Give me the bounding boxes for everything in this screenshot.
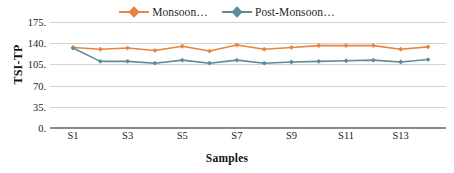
- y-tick-label: 140.: [28, 38, 46, 49]
- chart-legend: Monsoon… Post-Monsoon…: [0, 2, 454, 22]
- x-tick-label: S11: [338, 130, 354, 141]
- y-tick-label: 105.: [28, 59, 46, 70]
- chart-container: Monsoon… Post-Monsoon… TSI-TP 0.35.70.10…: [0, 0, 454, 173]
- data-point-marker: [426, 44, 431, 49]
- x-tick-label: S1: [67, 130, 78, 141]
- data-point-marker: [371, 43, 376, 48]
- legend-entry-monsoon[interactable]: Monsoon…: [119, 6, 208, 18]
- data-point-marker: [316, 59, 321, 64]
- y-tick-label: 175.: [28, 17, 46, 28]
- series-monsoon: [71, 43, 431, 54]
- legend-swatch-post-monsoon-icon: [222, 7, 252, 17]
- y-axis-title: TSI-TP: [11, 30, 26, 100]
- data-point-marker: [98, 47, 103, 52]
- series-layer: [50, 22, 446, 128]
- data-point-marker: [344, 43, 349, 48]
- legend-label-monsoon: Monsoon…: [152, 6, 208, 18]
- data-point-marker: [125, 46, 130, 51]
- data-point-marker: [153, 61, 158, 66]
- data-point-marker: [398, 47, 403, 52]
- x-tick-label: S13: [393, 130, 409, 141]
- data-point-marker: [262, 61, 267, 66]
- data-point-marker: [207, 49, 212, 54]
- data-point-marker: [316, 43, 321, 48]
- data-point-marker: [207, 61, 212, 66]
- data-point-marker: [234, 43, 239, 48]
- x-tick-label: S5: [177, 130, 188, 141]
- data-point-marker: [289, 60, 294, 65]
- data-point-marker: [371, 58, 376, 63]
- x-axis-title: Samples: [0, 152, 454, 164]
- x-tick-label: S7: [231, 130, 242, 141]
- legend-swatch-monsoon-icon: [119, 7, 149, 17]
- y-tick-label: 0.: [38, 123, 46, 134]
- x-tick-label: S3: [122, 130, 133, 141]
- data-point-marker: [398, 60, 403, 65]
- data-point-marker: [125, 59, 130, 64]
- legend-label-post-monsoon: Post-Monsoon…: [255, 6, 335, 18]
- legend-entry-post-monsoon[interactable]: Post-Monsoon…: [222, 6, 335, 18]
- data-point-marker: [344, 58, 349, 63]
- y-tick-label: 35.: [33, 101, 46, 112]
- plot-area: 0.35.70.105.140.175. S1S3S5S7S9S11S13: [50, 22, 446, 128]
- y-tick-label: 70.: [33, 80, 46, 91]
- data-point-marker: [180, 44, 185, 49]
- data-point-marker: [234, 58, 239, 63]
- data-point-marker: [153, 48, 158, 53]
- data-point-marker: [426, 57, 431, 62]
- data-point-marker: [289, 45, 294, 50]
- x-tick-label: S9: [286, 130, 297, 141]
- data-point-marker: [262, 47, 267, 52]
- data-point-marker: [180, 58, 185, 63]
